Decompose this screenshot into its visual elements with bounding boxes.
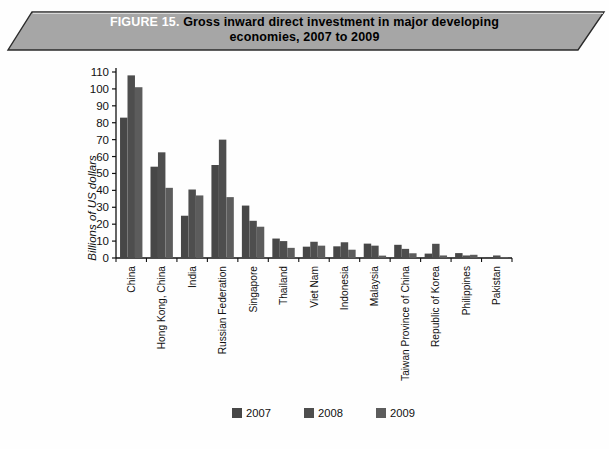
y-axis: 0102030405060708090100110Billions of US … bbox=[86, 66, 512, 264]
bar bbox=[341, 242, 348, 258]
y-tick-label: 40 bbox=[96, 184, 109, 196]
chart-legend: 200720082009 bbox=[232, 407, 415, 419]
bar bbox=[188, 190, 195, 258]
x-tick-label: Indonesia bbox=[339, 266, 350, 311]
bar bbox=[425, 254, 432, 258]
bar bbox=[280, 241, 287, 258]
x-tick-label: India bbox=[187, 266, 198, 288]
bar bbox=[432, 244, 439, 258]
bar bbox=[371, 246, 378, 258]
banner-shape bbox=[0, 4, 609, 56]
bar bbox=[196, 195, 203, 258]
bar bbox=[287, 248, 294, 258]
legend-label: 2007 bbox=[246, 407, 271, 419]
bar bbox=[440, 255, 447, 258]
x-axis: ChinaHong Kong, ChinaIndiaRussian Federa… bbox=[116, 258, 512, 381]
bar bbox=[493, 255, 500, 258]
bar bbox=[211, 165, 218, 258]
x-tick-label: Viet Nam bbox=[309, 266, 320, 308]
y-tick-label: 60 bbox=[96, 151, 109, 163]
legend-swatch bbox=[304, 408, 314, 418]
bar bbox=[463, 255, 470, 258]
legend-label: 2009 bbox=[390, 407, 415, 419]
bar bbox=[257, 227, 264, 258]
y-tick-label: 30 bbox=[96, 201, 109, 213]
chart-canvas: 0102030405060708090100110Billions of US … bbox=[0, 58, 609, 449]
legend-swatch bbox=[376, 408, 386, 418]
y-tick-label: 100 bbox=[90, 83, 109, 95]
y-tick-label: 20 bbox=[96, 218, 109, 230]
bar bbox=[409, 253, 416, 258]
x-tick-label: Pakistan bbox=[491, 266, 502, 305]
x-tick-label: Taiwan Province of China bbox=[400, 266, 411, 381]
bar bbox=[486, 257, 493, 258]
bar bbox=[181, 216, 188, 258]
bar bbox=[120, 118, 127, 258]
legend-label: 2008 bbox=[318, 407, 343, 419]
bar bbox=[470, 255, 477, 258]
y-tick-label: 50 bbox=[96, 167, 109, 179]
bar bbox=[219, 140, 226, 258]
bar bbox=[379, 256, 386, 258]
bar bbox=[348, 250, 355, 258]
y-tick-label: 10 bbox=[96, 235, 109, 247]
x-tick-label: China bbox=[126, 266, 137, 293]
bars-layer bbox=[120, 75, 508, 258]
x-tick-label: Thailand bbox=[278, 266, 289, 305]
y-tick-label: 0 bbox=[103, 252, 109, 264]
banner-parallelogram bbox=[8, 12, 604, 50]
y-axis-title: Billions of US dollars bbox=[86, 155, 98, 261]
legend-swatch bbox=[232, 408, 242, 418]
bar bbox=[333, 246, 340, 258]
bar bbox=[303, 247, 310, 258]
x-tick-label: Singapore bbox=[248, 266, 259, 313]
x-tick-label: Hong Kong, China bbox=[156, 266, 167, 350]
x-tick-label: Malaysia bbox=[369, 266, 380, 307]
figure-title-banner: FIGURE 15. Gross inward direct investmen… bbox=[0, 4, 609, 56]
x-tick-label: Russian Federation bbox=[217, 266, 228, 354]
bar-chart: 0102030405060708090100110Billions of US … bbox=[0, 58, 609, 449]
y-tick-label: 110 bbox=[91, 66, 109, 78]
bar bbox=[128, 75, 135, 258]
bar bbox=[242, 206, 249, 258]
bar bbox=[165, 188, 172, 258]
bar bbox=[272, 239, 279, 258]
y-tick-label: 90 bbox=[96, 100, 109, 112]
y-tick-label: 80 bbox=[96, 117, 109, 129]
y-tick-label: 70 bbox=[96, 134, 109, 146]
bar bbox=[226, 197, 233, 258]
bar bbox=[310, 242, 317, 258]
bar bbox=[151, 167, 158, 258]
bar bbox=[402, 249, 409, 258]
bar bbox=[318, 246, 325, 258]
bar bbox=[501, 257, 508, 258]
x-tick-label: Republic of Korea bbox=[430, 266, 441, 347]
bar bbox=[364, 244, 371, 258]
bar bbox=[394, 245, 401, 258]
bar bbox=[135, 87, 142, 258]
bar bbox=[249, 221, 256, 258]
bar bbox=[158, 152, 165, 258]
bar bbox=[455, 253, 462, 258]
x-tick-label: Philippines bbox=[461, 266, 472, 315]
